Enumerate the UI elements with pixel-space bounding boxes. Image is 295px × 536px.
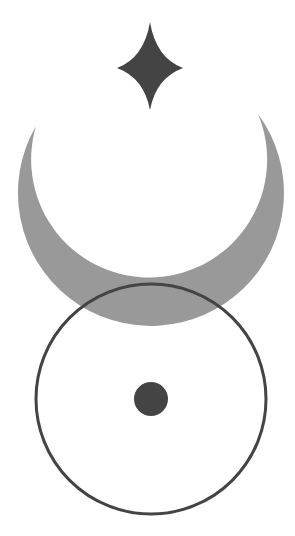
center-dot-icon [134, 382, 168, 416]
crescent-icon [18, 114, 284, 326]
star-icon [117, 22, 183, 110]
symbol-canvas [0, 0, 295, 536]
symbol-graphic [0, 0, 295, 536]
